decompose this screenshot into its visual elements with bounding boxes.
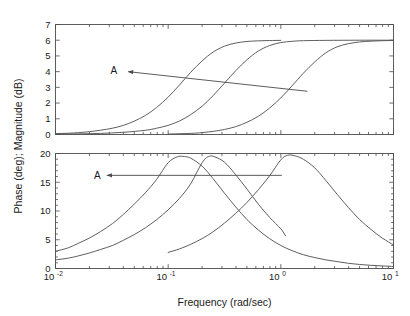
- y-tick-label: 7: [45, 19, 50, 30]
- x-tick-label-exponent: 1: [395, 270, 399, 277]
- x-tick-label-exponent: -1: [170, 270, 176, 277]
- x-tick-label-mantissa: 10: [156, 271, 167, 282]
- x-tick-label-exponent: -2: [57, 270, 63, 277]
- y-tick-label: 5: [45, 234, 50, 245]
- y-tick-label: 10: [40, 205, 51, 216]
- y-tick-label: 0: [45, 129, 50, 140]
- y-tick-label: 15: [40, 177, 51, 188]
- y-tick-label: 4: [45, 66, 50, 77]
- y-tick-label: 3: [45, 82, 50, 93]
- y-tick-label: 1: [45, 113, 50, 124]
- figure-canvas: 01234567A 05101520A 10-210-1100101Freque…: [0, 0, 410, 316]
- x-tick-label-mantissa: 10: [382, 271, 393, 282]
- x-tick-label-mantissa: 10: [44, 271, 55, 282]
- x-tick-label-mantissa: 10: [269, 271, 280, 282]
- x-axis-title: Frequency (rad/sec): [178, 296, 272, 308]
- y-tick-label: 20: [40, 148, 51, 159]
- annotation-label-a: A: [111, 65, 118, 76]
- y-tick-label: 6: [45, 35, 50, 46]
- y-axis-title: Phase (deg); Magnitude (dB): [12, 79, 24, 214]
- y-tick-label: 5: [45, 50, 50, 61]
- bode-plot-figure: 01234567A 05101520A 10-210-1100101Freque…: [0, 0, 410, 316]
- x-tick-label-exponent: 0: [282, 270, 286, 277]
- annotation-label-a: A: [94, 170, 101, 181]
- y-tick-label: 2: [45, 97, 50, 108]
